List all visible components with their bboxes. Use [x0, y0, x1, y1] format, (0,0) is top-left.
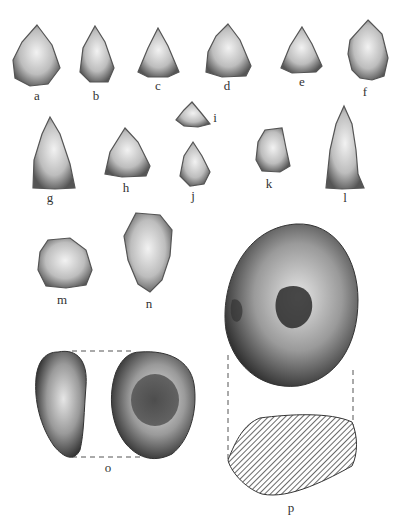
point-c: [138, 28, 179, 77]
label-e: e: [292, 74, 312, 90]
label-n: n: [139, 296, 159, 312]
artifact-plate: [0, 0, 403, 523]
point-h: [105, 128, 150, 177]
label-g: g: [40, 190, 60, 206]
label-o: o: [98, 460, 118, 476]
point-f: [348, 20, 388, 80]
point-l: [326, 106, 364, 189]
flake-n: [124, 213, 172, 292]
label-h: h: [116, 180, 136, 196]
point-a: [13, 25, 60, 86]
point-d: [206, 24, 251, 77]
label-c: c: [148, 78, 168, 94]
flake-m: [38, 238, 92, 288]
stone-p: [225, 224, 358, 495]
label-b: b: [86, 88, 106, 104]
point-g: [33, 117, 75, 189]
label-a: a: [27, 88, 47, 104]
label-d: d: [217, 78, 237, 94]
label-m: m: [52, 292, 72, 308]
label-j: j: [183, 188, 203, 204]
label-f: f: [355, 84, 375, 100]
label-i: i: [205, 110, 225, 126]
label-p: p: [281, 500, 301, 516]
point-j: [180, 142, 210, 186]
flake-k: [256, 128, 290, 172]
point-e: [281, 27, 322, 73]
point-b: [80, 26, 114, 82]
label-k: k: [259, 176, 279, 192]
label-l: l: [335, 190, 355, 206]
stone-o: [36, 351, 195, 459]
